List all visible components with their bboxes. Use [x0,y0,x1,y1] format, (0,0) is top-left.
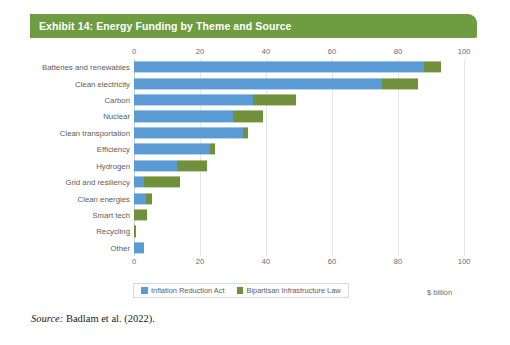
x-axis-tick-label: 20 [196,47,204,56]
legend-item[interactable]: Bipartisan Infrastructure Law [237,286,341,295]
category-label: Smart tech [30,210,130,219]
bar-segment[interactable] [243,127,248,138]
bar-segment[interactable] [424,62,441,73]
category-label: Clean transportation [30,128,130,137]
category-label: Hydrogen [30,161,130,170]
x-axis-tick-label: 0 [132,257,136,266]
legend-swatch-icon [237,287,244,294]
bar-segment[interactable] [134,62,424,73]
category-label: Carbon [30,96,130,105]
bar-segment[interactable] [134,177,144,188]
x-axis-tick-label: 100 [458,257,471,266]
source-note: Source: Badlam et al. (2022). [31,313,155,324]
x-axis-tick-label: 60 [328,257,336,266]
page-title: Exhibit 14: Energy Funding by Theme and … [30,20,292,32]
bar-segment[interactable] [146,193,153,204]
bars-canvas: Batteries and renewablesClean electricit… [30,59,477,256]
category-label: Clean electricity [30,79,130,88]
bar-segment[interactable] [134,78,382,89]
x-axis-unit-label: $ billion [427,288,452,297]
x-axis-tick-label: 100 [458,47,471,56]
bar-segment[interactable] [144,177,180,188]
x-axis-tick-label: 80 [394,47,402,56]
bar-segment[interactable] [134,160,177,171]
bar-segment[interactable] [382,78,418,89]
category-label: Clean energies [30,194,130,203]
bar-segment[interactable] [134,242,144,253]
exhibit-title-banner: Exhibit 14: Energy Funding by Theme and … [30,14,477,38]
exhibit-figure: Exhibit 14: Energy Funding by Theme and … [0,0,510,345]
bar-segment[interactable] [134,94,253,105]
bar-row[interactable]: Hydrogen [30,158,477,174]
bar-row[interactable]: Other [30,240,477,256]
category-label: Other [30,243,130,252]
x-axis-tick-label: 20 [196,257,204,266]
bar-row[interactable]: Clean electricity [30,75,477,91]
bar-row[interactable]: Batteries and renewables [30,59,477,75]
legend-item[interactable]: Inflation Reduction Act [141,286,225,295]
x-axis-top: 020406080100 [30,46,477,58]
bar-row[interactable]: Recycling [30,223,477,239]
category-label: Efficiency [30,145,130,154]
bar-segment[interactable] [134,111,233,122]
bar-segment[interactable] [253,94,296,105]
bar-row[interactable]: Nuclear [30,108,477,124]
category-label: Recycling [30,227,130,236]
x-axis-tick-label: 0 [132,47,136,56]
bar-segment[interactable] [134,144,210,155]
bar-row[interactable]: Grid and resiliency [30,174,477,190]
category-label: Batteries and renewables [30,63,130,72]
chart-legend: Inflation Reduction ActBipartisan Infras… [133,283,349,298]
bar-row[interactable]: Efficiency [30,141,477,157]
bar-row[interactable]: Clean transportation [30,125,477,141]
bar-row[interactable]: Carbon [30,92,477,108]
source-label: Source: [31,313,63,324]
x-axis-tick-label: 80 [394,257,402,266]
bar-segment[interactable] [233,111,263,122]
bar-segment[interactable] [134,127,243,138]
bar-segment[interactable] [134,193,146,204]
chart-plot-area: 020406080100 Batteries and renewablesCle… [30,46,477,268]
legend-label: Inflation Reduction Act [151,286,225,295]
x-axis-bottom: 020406080100 [30,256,477,268]
x-axis-tick-label: 40 [262,47,270,56]
bar-row[interactable]: Clean energies [30,190,477,206]
legend-label: Bipartisan Infrastructure Law [247,286,341,295]
x-axis-tick-label: 40 [262,257,270,266]
legend-swatch-icon [141,287,148,294]
bar-segment[interactable] [210,144,215,155]
source-citation: Badlam et al. (2022). [66,313,155,324]
bar-segment[interactable] [134,209,147,220]
category-label: Grid and resiliency [30,178,130,187]
bar-segment[interactable] [134,226,136,237]
x-axis-tick-label: 60 [328,47,336,56]
bar-row[interactable]: Smart tech [30,207,477,223]
category-label: Nuclear [30,112,130,121]
bar-segment[interactable] [177,160,207,171]
